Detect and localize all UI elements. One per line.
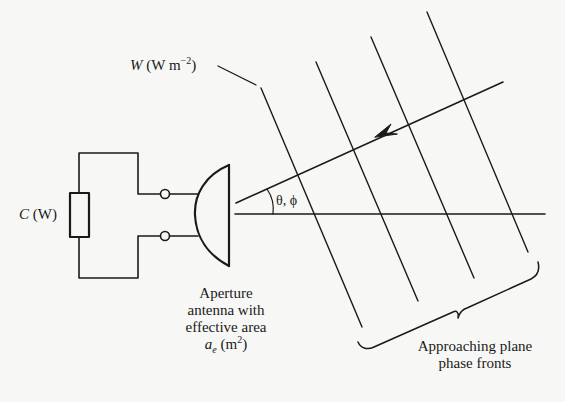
antenna-caption-line4: ae (m2): [173, 336, 279, 353]
brace: [358, 262, 539, 349]
received-power-label: C (W): [19, 206, 57, 223]
power-density-exp: −2: [181, 55, 192, 66]
received-power-symbol: C: [19, 206, 29, 222]
phase-fronts-caption-line1: Approaching plane: [400, 338, 550, 355]
antenna-caption-line2: antenna with: [173, 302, 279, 319]
power-density-unit: (W m: [146, 57, 180, 73]
antenna-caption-line1: Aperture: [173, 285, 279, 302]
received-power-unit: (W): [33, 206, 57, 222]
area-close: ): [242, 336, 247, 352]
power-density-label: W (W m−2): [130, 57, 196, 74]
phase-fronts-caption-line2: phase fronts: [400, 355, 550, 372]
area-unit: (m: [221, 336, 238, 352]
antenna-caption: Aperture antenna with effective area ae …: [173, 285, 279, 353]
aperture-antenna-icon: [195, 165, 229, 266]
incident-ray: [236, 82, 503, 203]
terminal-bottom: [161, 232, 170, 241]
angle-arc: [267, 189, 273, 214]
antenna-caption-line3: effective area: [173, 319, 279, 336]
angle-label: θ, ϕ: [276, 192, 297, 209]
power-density-symbol: W: [130, 57, 143, 73]
phase-fronts-caption: Approaching plane phase fronts: [400, 338, 550, 372]
power-density-close: ): [191, 57, 196, 73]
area-subscript: e: [212, 344, 216, 355]
phase-fronts: [261, 12, 528, 327]
terminal-top: [161, 190, 170, 199]
load-resistor: [70, 193, 89, 237]
circuit-wires: [79, 153, 198, 278]
arrow-head-icon: [375, 124, 397, 137]
leader-line: [218, 66, 256, 85]
